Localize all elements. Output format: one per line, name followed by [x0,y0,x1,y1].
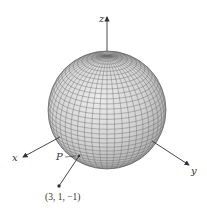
external-point-marker [57,184,60,187]
external-point-label: (3, 1, −1) [45,192,80,203]
y-axis-label: y [190,165,197,176]
z-axis-label: z [98,13,105,24]
sphere-diagram: z x y P (3, 1, −1) [0,0,207,214]
point-p-label: P [55,151,63,162]
point-p-marker [78,155,81,158]
y-axis [152,141,189,165]
x-axis [23,137,60,157]
x-axis-label: x [12,152,18,163]
sphere [48,51,166,169]
